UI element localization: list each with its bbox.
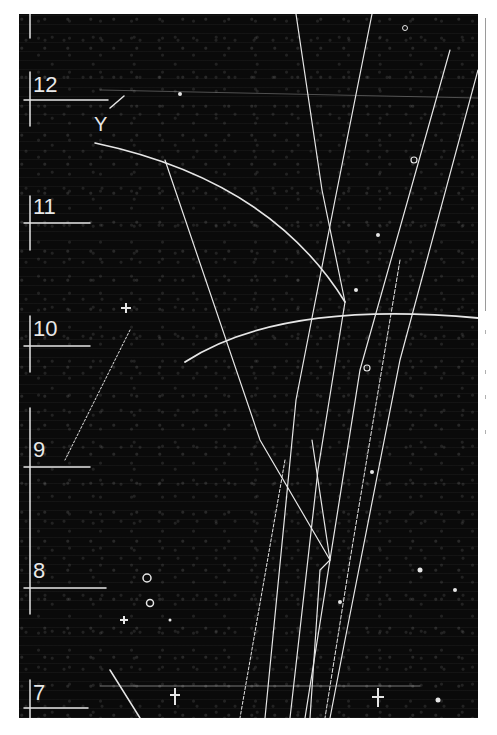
scale-label-9: 9 bbox=[33, 439, 45, 461]
margin-line bbox=[485, 18, 486, 311]
margin-tick bbox=[485, 370, 486, 374]
scale-label-11: 11 bbox=[33, 196, 56, 218]
margin-tick bbox=[485, 330, 486, 334]
bubble-chamber-photo: 12 11 10 9 8 7 Y bbox=[19, 14, 478, 718]
scale-label-8: 8 bbox=[33, 560, 45, 582]
scale-label-10: 10 bbox=[33, 318, 57, 340]
scale-label-7: 7 bbox=[33, 682, 45, 704]
margin-tick bbox=[485, 395, 486, 399]
particle-tracks bbox=[19, 14, 478, 718]
scale-label-12: 12 bbox=[33, 74, 57, 96]
y-annotation: Y bbox=[94, 114, 107, 134]
margin-tick bbox=[485, 430, 486, 434]
